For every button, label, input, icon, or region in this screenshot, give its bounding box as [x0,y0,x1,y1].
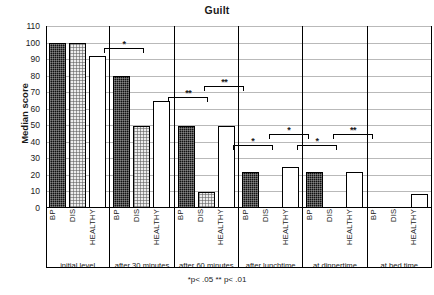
series-label-bp: BP [241,209,261,245]
bar-group-at-dinnertime: * ** [303,26,367,208]
bar-bp[interactable] [306,172,323,208]
y-tick-20: 20 [31,170,40,180]
significance-footnote: *p< .05 ** p< .01 [0,275,434,284]
y-tick-30: 30 [31,153,40,163]
significance-star: * [270,126,308,135]
bar-group-after-60-minutes: ** ** [175,26,239,208]
bar-groups: * ** ** * * [46,26,432,208]
x-group-initial-level: BP DIS HEALTHY initial level [46,208,110,268]
bar-healthy[interactable] [89,56,106,208]
significance-star: ** [169,89,207,98]
bar-group-after-30-minutes: * [110,26,174,208]
series-label-bp: BP [369,209,389,245]
bar-bp[interactable] [113,76,130,208]
x-group-name: at bed time [368,261,431,270]
x-axis-labels: BP DIS HEALTHY initial level BP DIS HEAL… [46,208,432,268]
x-group-name: at dinnertime [303,261,366,270]
bar-healthy[interactable] [153,101,170,208]
series-label-healthy: HEALTHY [345,209,365,245]
y-tick-0: 0 [35,203,40,213]
bar-bp[interactable] [242,172,259,208]
bar-dis[interactable] [198,192,215,209]
x-group-after-lunchtime: BP DIS HEALTHY after lunchtime [239,208,303,268]
bar-group-initial-level [46,26,110,208]
x-group-name: initial level [46,261,109,270]
significance-star: * [298,137,336,146]
y-tick-100: 100 [26,38,40,48]
series-label-healthy: HEALTHY [88,209,108,245]
series-label-bp: BP [305,209,325,245]
significance-bracket-bp-dis: * [104,48,144,53]
x-axis-bottom-rule [46,267,432,268]
y-tick-60: 60 [31,104,40,114]
series-label-bp: BP [176,209,196,245]
series-label-dis: DIS [132,209,152,245]
y-tick-40: 40 [31,137,40,147]
y-tick-90: 90 [31,54,40,64]
x-group-name: after 60 minutes [175,261,238,270]
significance-star: ** [334,126,372,135]
y-tick-110: 110 [26,21,40,31]
x-group-after-30-minutes: BP DIS HEALTHY after 30 minutes [110,208,174,268]
bar-group-at-bed-time [368,26,432,208]
series-label-dis: DIS [325,209,345,245]
series-label-dis: DIS [261,209,281,245]
bar-dis[interactable] [69,43,86,209]
series-label-bp: BP [112,209,132,245]
significance-bracket-bp-dis: * [297,145,337,150]
bar-dis[interactable] [133,126,150,209]
significance-star: * [105,40,143,49]
y-tick-50: 50 [31,120,40,130]
chart-container: Guilt Median score 110 100 90 80 70 60 5… [0,0,434,295]
bar-healthy[interactable] [218,126,235,209]
chart-title: Guilt [0,4,434,16]
x-group-at-bed-time: BP DIS HEALTHY at bed time [368,208,432,268]
series-label-bp: BP [48,209,68,245]
significance-star: * [234,137,272,146]
bar-bp[interactable] [49,43,66,209]
series-label-healthy: HEALTHY [281,209,301,245]
bar-healthy[interactable] [346,172,363,208]
series-label-dis: DIS [389,209,409,245]
bar-healthy[interactable] [282,167,299,208]
y-tick-80: 80 [31,71,40,81]
x-group-name: after 30 minutes [110,261,173,270]
significance-star: ** [205,78,243,87]
series-label-healthy: HEALTHY [216,209,236,245]
x-group-name: after lunchtime [239,261,302,270]
significance-bracket-bp-dis: ** [168,97,208,102]
x-group-after-60-minutes: BP DIS HEALTHY after 60 minutes [175,208,239,268]
bar-group-after-lunchtime: * * [239,26,303,208]
y-tick-10: 10 [31,186,40,196]
x-group-at-dinnertime: BP DIS HEALTHY at dinnertime [303,208,367,268]
series-label-dis: DIS [196,209,216,245]
y-tick-70: 70 [31,87,40,97]
significance-bracket-bp-dis: * [233,145,273,150]
bar-healthy[interactable] [411,194,428,208]
series-label-healthy: HEALTHY [152,209,172,245]
bar-bp[interactable] [178,126,195,209]
series-label-healthy: HEALTHY [409,209,429,245]
y-axis-tick-labels: 110 100 90 80 70 60 50 40 30 20 10 0 [0,0,44,295]
series-label-dis: DIS [68,209,88,245]
